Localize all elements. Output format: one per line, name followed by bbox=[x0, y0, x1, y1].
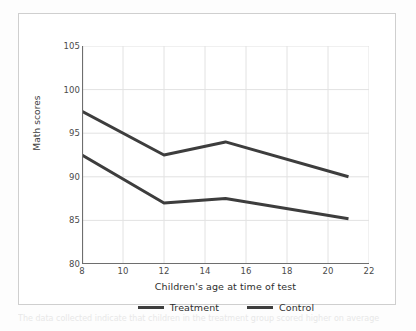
y-tick-label: 100 bbox=[54, 85, 80, 95]
page-bleed-text: The data collected indicate that childre… bbox=[18, 314, 398, 323]
plot-area bbox=[82, 46, 369, 264]
x-tick-label: 12 bbox=[149, 266, 179, 276]
x-tick-label: 22 bbox=[354, 266, 384, 276]
x-tick-label: 10 bbox=[108, 266, 138, 276]
legend-item-control[interactable]: Control bbox=[247, 302, 314, 313]
legend-label: Treatment bbox=[170, 302, 219, 313]
y-tick-label: 105 bbox=[54, 41, 80, 51]
chart-frame: 80859095100105 Math scores 8101214161820… bbox=[18, 13, 396, 305]
vertical-gridlines bbox=[123, 46, 369, 264]
legend-label: Control bbox=[279, 302, 314, 313]
x-tick-label: 14 bbox=[190, 266, 220, 276]
x-tick-label: 18 bbox=[272, 266, 302, 276]
x-tick-label: 20 bbox=[313, 266, 343, 276]
data-series-layer bbox=[82, 111, 349, 218]
legend-swatch-icon bbox=[247, 306, 273, 309]
x-tick-label: 8 bbox=[67, 266, 97, 276]
y-tick-label: 85 bbox=[54, 215, 80, 225]
series-line-treatment bbox=[82, 111, 349, 176]
legend-item-treatment[interactable]: Treatment bbox=[138, 302, 219, 313]
chart-legend: TreatmentControl bbox=[37, 302, 415, 313]
figure-container: 80859095100105 Math scores 8101214161820… bbox=[0, 0, 416, 331]
y-axis-ticks: 80859095100105 bbox=[50, 46, 80, 264]
legend-swatch-icon bbox=[138, 306, 164, 309]
plot-svg bbox=[82, 46, 369, 264]
axis-spines bbox=[82, 46, 369, 264]
y-tick-label: 90 bbox=[54, 172, 80, 182]
x-tick-label: 16 bbox=[231, 266, 261, 276]
x-axis-label: Children's age at time of test bbox=[82, 281, 369, 292]
x-axis-ticks: 810121416182022 bbox=[82, 266, 369, 280]
y-axis-label: Math scores bbox=[32, 79, 42, 167]
y-tick-label: 95 bbox=[54, 128, 80, 138]
